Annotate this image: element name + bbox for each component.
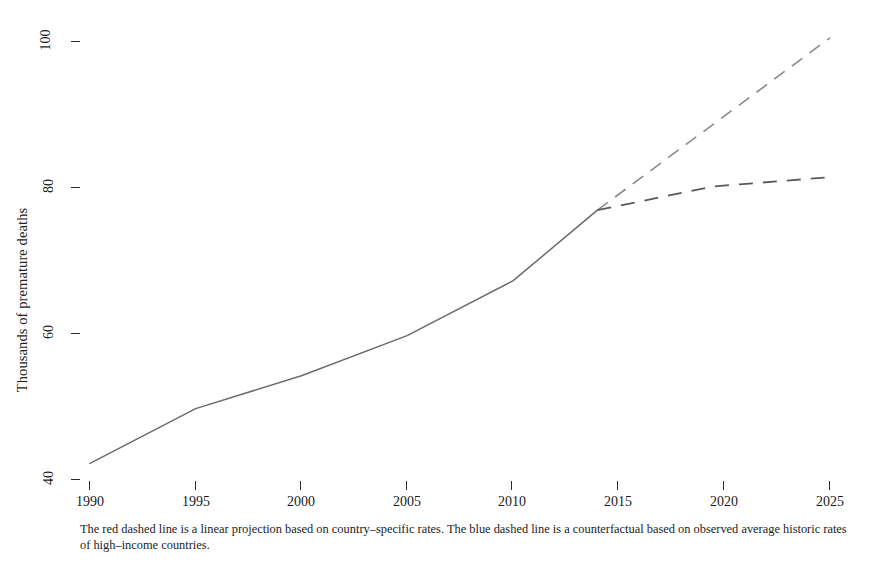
chart-canvas — [0, 0, 869, 571]
y-tick-mark-80 — [71, 187, 80, 188]
series-counterfactual-dashed-line — [597, 177, 830, 210]
x-tick-label-2005: 2005 — [377, 494, 437, 510]
y-axis-title: Thousands of premature deaths — [0, 0, 18, 150]
y-tick-label-80: 80 — [41, 166, 57, 206]
x-tick-label-2015: 2015 — [588, 494, 648, 510]
x-tick-mark-1990 — [89, 481, 90, 490]
x-tick-label-2000: 2000 — [271, 494, 331, 510]
x-tick-mark-2010 — [511, 481, 512, 490]
figure-caption: The red dashed line is a linear projecti… — [80, 521, 852, 554]
y-tick-mark-40 — [71, 479, 80, 480]
x-tick-mark-2020 — [723, 481, 724, 490]
x-tick-mark-2000 — [300, 481, 301, 490]
y-tick-mark-100 — [71, 41, 80, 42]
x-tick-label-2010: 2010 — [482, 494, 542, 510]
x-tick-mark-2025 — [829, 481, 830, 490]
x-tick-label-2025: 2025 — [800, 494, 860, 510]
y-tick-label-60: 60 — [41, 312, 57, 352]
y-tick-label-100: 100 — [38, 20, 54, 60]
x-tick-mark-1995 — [195, 481, 196, 490]
figure-container: Thousands of premature deaths 100 80 60 … — [0, 0, 869, 571]
x-tick-mark-2015 — [617, 481, 618, 490]
x-tick-label-1990: 1990 — [60, 494, 120, 510]
x-tick-label-1995: 1995 — [166, 494, 226, 510]
series-observed-line — [90, 210, 597, 463]
x-tick-label-2020: 2020 — [694, 494, 754, 510]
y-axis-title-text: Thousands of premature deaths — [14, 150, 31, 450]
y-tick-label-40: 40 — [41, 458, 57, 498]
x-tick-mark-2005 — [406, 481, 407, 490]
y-tick-mark-60 — [71, 333, 80, 334]
series-projection-dashed-line — [597, 38, 830, 210]
